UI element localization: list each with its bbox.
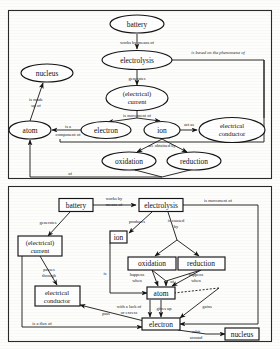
node-electron-lower[interactable]: electron (142, 318, 180, 330)
edge-label-is-movement-of: is movement of (123, 113, 151, 118)
scanned-page: works by means of is based on the phenom… (0, 0, 280, 349)
node-atom[interactable]: atom (9, 121, 51, 139)
edge-label-generates-lower: generates (40, 220, 57, 225)
edge-label-is-made-up-of-1: is made (29, 97, 43, 102)
node-oxidation[interactable]: oxidation (102, 152, 156, 170)
edge-label-pass: pass (102, 311, 110, 316)
edge-label-is-made-up-of-2: up of (31, 103, 41, 108)
node-atom-lower-label: atom (154, 289, 169, 298)
node-battery[interactable]: battery (110, 15, 164, 33)
node-electrical-current-lower[interactable]: (electrical) current (18, 236, 62, 256)
node-electron[interactable]: electron (81, 122, 131, 139)
edge-label-gives-up: gives up (156, 306, 172, 311)
node-current-lower-line2: current (31, 247, 50, 254)
node-conductor-lower-line1: electrical (45, 289, 69, 296)
node-atom-label: atom (23, 126, 38, 135)
node-ion-lower[interactable]: ion (110, 231, 127, 243)
edge-label-is-based-on-the-phenomena-of: is based on the phenomena of (191, 50, 245, 55)
edge-label-orbit-around-1: orbit (192, 329, 201, 334)
node-electrolysis-lower[interactable]: electrolysis (139, 199, 183, 212)
edge-label-with-a-lack-of-1: with a lack of (117, 304, 142, 309)
node-ion-lower-label: ion (114, 233, 124, 242)
edge-label-of: of (68, 171, 72, 176)
edge-label-passes-through-2: through (42, 273, 57, 278)
node-oxidation-lower[interactable]: oxidation (128, 257, 176, 270)
node-electrolysis-lower-label: electrolysis (144, 201, 178, 210)
node-nucleus[interactable]: nucleus (21, 64, 73, 82)
node-reduction-lower-label: reduction (187, 259, 215, 268)
edge-label-is-caused-by-2: by (174, 224, 179, 229)
node-atom-lower[interactable]: atom (147, 287, 175, 299)
node-oxidation-lower-label: oxidation (138, 259, 166, 268)
edge-label-is-movement-of-lower: is movement of (204, 198, 232, 203)
node-oxidation-label: oxidation (115, 157, 143, 166)
edge-label-act-as: act as (184, 122, 194, 127)
edge-label-passes-through-1: passes (43, 267, 55, 272)
node-current-lower-line1: (electrical) (26, 239, 55, 247)
edge-label-works-by-1: works by (106, 196, 123, 201)
edge-label-is: is (103, 271, 106, 276)
edge-label-happens-when-ox-2: when (132, 278, 142, 283)
edge-label-are-obtained-by: are obtained by (148, 143, 176, 148)
edge-label-is-a-flux-of: is a flux of (32, 321, 52, 326)
node-electrical-conductor[interactable]: electrical conductor (199, 118, 265, 143)
edge-label-happens-when-ox-1: happens (130, 272, 145, 277)
node-ion-label: ion (157, 126, 167, 135)
edge-label-is-caused-by-1: is caused (168, 218, 185, 223)
edge-label-of-lower: of (170, 279, 174, 284)
node-battery-label: battery (127, 20, 148, 29)
edge-label-happens-when-red-1: happens (189, 272, 204, 277)
edge-label-with-a-lack-of-2: or excess (121, 310, 138, 315)
edge-label-generates: generates (129, 76, 146, 81)
concept-maps-svg: works by means of is based on the phenom… (0, 0, 280, 349)
node-electrical-conductor-lower[interactable]: electrical conductor (35, 286, 80, 306)
edge-label-is-a-component-of-2: component of (56, 132, 81, 137)
node-current-label-line1: (electrical) (123, 90, 152, 98)
node-conductor-label-line2: conductor (219, 130, 246, 137)
node-reduction-label: reduction (180, 157, 208, 166)
edge-label-is-a-component-of-1: is a (65, 124, 71, 129)
node-current-label-line2: current (128, 98, 147, 105)
edge-label-works-by-means-of: works by means of (120, 40, 155, 45)
node-electrolysis[interactable]: electrolysis (102, 51, 172, 70)
node-electron-label: electron (94, 126, 118, 135)
node-nucleus-label: nucleus (36, 69, 59, 78)
edge-label-happens-when-red-2: when (191, 278, 201, 283)
edge-label-gains: gains (202, 304, 212, 309)
node-electrical-current[interactable]: (electrical) current (106, 86, 168, 111)
node-battery-lower[interactable]: battery (59, 199, 93, 212)
edge-label-works-by-2: means of (106, 202, 123, 207)
node-conductor-label-line1: electrical (220, 122, 244, 129)
edge-label-orbit-around-2: around (190, 335, 203, 340)
node-electrolysis-label: electrolysis (120, 56, 154, 65)
node-nucleus-lower-label: nucleus (231, 330, 254, 339)
node-electron-lower-label: electron (149, 320, 173, 329)
edge-label-produces: produces (129, 219, 145, 224)
node-reduction-lower[interactable]: reduction (178, 257, 225, 270)
node-nucleus-lower[interactable]: nucleus (225, 328, 259, 340)
node-reduction[interactable]: reduction (167, 152, 221, 170)
node-battery-lower-label: battery (66, 201, 87, 210)
node-ion[interactable]: ion (144, 122, 180, 139)
node-conductor-lower-line2: conductor (44, 297, 71, 304)
